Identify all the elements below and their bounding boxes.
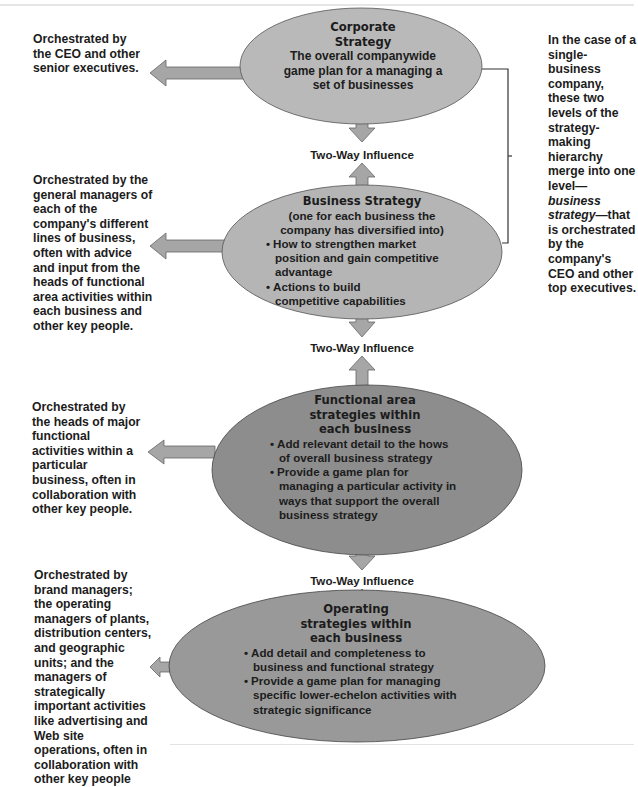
business-strategy-text: Business Strategy (one for each business… xyxy=(262,194,462,308)
business-bullet: Actions to build competitive capabilitie… xyxy=(266,280,462,308)
functional-strategy-text: Functional area strategies within each b… xyxy=(270,393,460,522)
arrow-left-business xyxy=(150,233,230,259)
functional-bullets: Add relevant detail to the hows of overa… xyxy=(270,437,460,522)
merge-bracket xyxy=(482,69,508,243)
operating-strategy-text: Operating strategies within each busines… xyxy=(240,602,472,717)
functional-title: Functional area strategies within each b… xyxy=(270,393,460,437)
bottom-rule xyxy=(170,744,634,745)
corporate-strategy-text: Corporate Strategy The overall companywi… xyxy=(268,20,458,93)
business-title: Business Strategy xyxy=(262,194,462,209)
corporate-subtitle: The overall companywide game plan for a … xyxy=(268,49,458,93)
arrow-left-operating xyxy=(150,657,170,677)
note-emphasis: business strategy xyxy=(548,194,601,223)
orchestrated-by-operating: Orchestrated by brand managers; the oper… xyxy=(34,568,152,787)
operating-bullets: Add detail and completeness to business … xyxy=(244,646,472,717)
influence-label-1: Two-Way Influence xyxy=(282,148,442,161)
business-bullet: How to strengthen market position and ga… xyxy=(266,237,462,280)
arrow-left-functional xyxy=(148,440,215,464)
arrow-up-1 xyxy=(349,163,375,188)
arrow-left-corporate xyxy=(150,60,244,86)
corporate-title: Corporate Strategy xyxy=(268,20,458,49)
orchestrated-by-functional: Orchestrated by the heads of major funct… xyxy=(32,400,145,517)
business-bullets: How to strengthen market position and ga… xyxy=(266,237,462,308)
orchestrated-by-business: Orchestrated by the general managers of … xyxy=(33,173,155,334)
operating-bullet: Provide a game plan for managing specifi… xyxy=(244,674,472,717)
orchestrated-by-corporate: Orchestrated by the CEO and other senior… xyxy=(33,32,145,76)
operating-bullet: Add detail and completeness to business … xyxy=(244,646,472,674)
functional-bullet: Add relevant detail to the hows of overa… xyxy=(270,437,460,465)
functional-bullet: Provide a game plan for managing a parti… xyxy=(270,465,460,522)
influence-label-3: Two-Way Influence xyxy=(282,574,442,587)
business-subtitle: (one for each business the company has d… xyxy=(262,209,462,237)
operating-title: Operating strategies within each busines… xyxy=(240,602,472,646)
influence-label-2: Two-Way Influence xyxy=(282,341,442,354)
single-business-note: In the case of a single-business company… xyxy=(548,33,638,296)
